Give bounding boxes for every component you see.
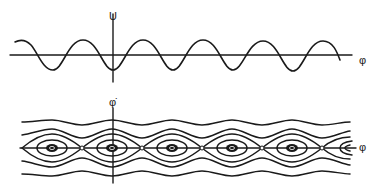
center-4 bbox=[226, 144, 238, 152]
center-2 bbox=[106, 144, 118, 152]
center-3 bbox=[166, 144, 178, 152]
bottom-x-axis-label: φ bbox=[359, 142, 366, 153]
center-5 bbox=[286, 144, 298, 152]
trajectory-bottom-outer bbox=[22, 171, 350, 176]
top-y-axis-label: U bbox=[109, 11, 117, 22]
trajectory-top-inner bbox=[22, 129, 350, 138]
trajectory-bottom-inner bbox=[22, 158, 350, 167]
diagram-canvas bbox=[0, 0, 377, 196]
bottom-y-axis-label: φ̇ bbox=[109, 97, 116, 108]
trajectory-top-outer bbox=[22, 120, 350, 125]
top-x-axis-label: φ bbox=[359, 55, 366, 66]
center-1 bbox=[46, 144, 58, 152]
